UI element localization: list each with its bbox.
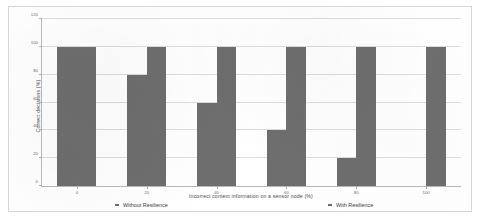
bar — [426, 47, 446, 186]
bar-group — [337, 19, 376, 186]
legend-label: Without Resilience — [123, 202, 168, 208]
legend-swatch-icon — [328, 204, 332, 206]
bar — [217, 47, 237, 186]
x-tick-mark — [426, 186, 427, 189]
bar — [77, 47, 97, 186]
y-tick-mark — [39, 185, 42, 186]
y-tick-mark — [39, 157, 42, 158]
bar — [286, 47, 306, 186]
y-tick-label: 60 — [33, 95, 38, 100]
legend-item-without-resilience: Without Resilience — [115, 202, 168, 208]
y-tick-label: 80 — [33, 67, 38, 72]
y-tick-mark — [39, 129, 42, 130]
y-tick-mark — [39, 46, 42, 47]
legend-swatch-icon — [115, 204, 119, 206]
x-axis-title: Incorrect context information on a senso… — [41, 193, 461, 199]
legend-item-with-resilience: With Resilience — [328, 202, 373, 208]
x-tick-mark — [217, 186, 218, 189]
plot-area: 020406080100120020406080100 — [41, 19, 461, 187]
bar-group — [267, 19, 306, 186]
bar-group — [57, 19, 96, 186]
bar-group — [407, 19, 446, 186]
bar — [197, 103, 217, 187]
bar — [57, 47, 77, 186]
x-tick-mark — [286, 186, 287, 189]
x-tick-mark — [356, 186, 357, 189]
x-tick-mark — [147, 186, 148, 189]
bar-group — [197, 19, 236, 186]
bar — [356, 47, 376, 186]
chart-legend: Without Resilience With Resilience — [41, 202, 461, 214]
y-tick-label: 20 — [33, 151, 38, 156]
y-tick-mark — [39, 18, 42, 19]
bar — [147, 47, 167, 186]
x-tick-mark — [77, 186, 78, 189]
y-tick-label: 120 — [31, 12, 38, 17]
y-tick-label: 100 — [31, 39, 38, 44]
bar — [267, 130, 287, 186]
bar-group — [127, 19, 166, 186]
bars-layer — [42, 19, 461, 186]
y-tick-label: 0 — [36, 179, 38, 184]
bar — [337, 158, 357, 186]
legend-label: With Resilience — [336, 202, 373, 208]
figure-frame: Correct decisions (%) 020406080100120020… — [8, 6, 472, 212]
y-tick-mark — [39, 102, 42, 103]
y-tick-label: 40 — [33, 123, 38, 128]
bar — [127, 75, 147, 186]
y-tick-mark — [39, 74, 42, 75]
